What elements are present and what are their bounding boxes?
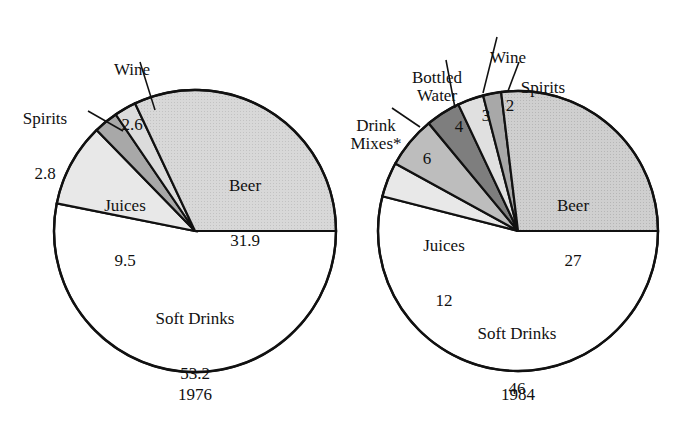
label-beer-1976-value: 31.9 bbox=[200, 232, 290, 250]
label-soft-drinks-1976-text: Soft Drinks bbox=[120, 310, 270, 328]
label-wine-1976-text: Wine bbox=[92, 61, 172, 79]
label-wine-1984-value: 3 bbox=[473, 107, 499, 125]
label-wine-1976-value: 2.6 bbox=[92, 116, 172, 134]
label-beer-1976-text: Beer bbox=[200, 177, 290, 195]
label-wine-1976: Wine 2.6 bbox=[92, 24, 172, 171]
label-soft-drinks-1984: Soft Drinks 46 bbox=[442, 288, 592, 433]
label-spirits-1984-text: Spirits bbox=[506, 79, 580, 97]
label-spirits-1984: Spirits bbox=[506, 42, 580, 134]
label-spirits-1976-text: Spirits bbox=[2, 110, 88, 128]
label-drink-mixes-1984-value: 6 bbox=[414, 150, 440, 168]
chart-title-1984: 1984 bbox=[478, 386, 558, 404]
label-soft-drinks-1976-value: 53.2 bbox=[120, 365, 270, 383]
label-juices-1976-text: Juices bbox=[80, 197, 170, 215]
label-soft-drinks-1984-text: Soft Drinks bbox=[442, 325, 592, 343]
label-bottled-water-1984-text: Bottled Water bbox=[392, 69, 482, 106]
label-beer-1984-text: Beer bbox=[530, 197, 616, 215]
chart-title-1976: 1976 bbox=[155, 386, 235, 404]
label-spirits-1976: Spirits 2.8 bbox=[2, 73, 88, 220]
label-juices-1976-value: 9.5 bbox=[80, 252, 170, 270]
label-beer-1984: Beer 27 bbox=[530, 160, 616, 307]
label-juices-1984-text: Juices bbox=[398, 237, 490, 255]
label-beer-1976: Beer 31.9 bbox=[200, 140, 290, 287]
label-beer-1984-value: 27 bbox=[530, 252, 616, 270]
label-spirits-1976-value: 2.8 bbox=[2, 165, 88, 183]
pie-chart-figure: Wine 2.6 Spirits 2.8 Juices 9.5 Beer 31.… bbox=[0, 0, 694, 433]
label-spirits-1984-value: 2 bbox=[497, 97, 523, 115]
label-bottled-water-1984-value: 4 bbox=[446, 118, 472, 136]
